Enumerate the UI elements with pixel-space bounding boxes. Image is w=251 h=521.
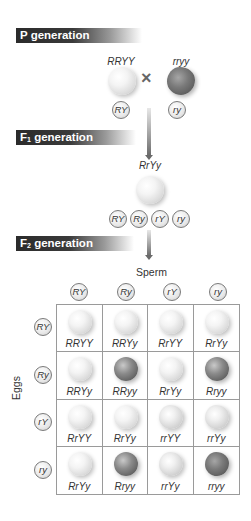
cell-genotype: Rryy xyxy=(194,386,240,397)
cell-genotype: rrYy xyxy=(148,481,193,492)
f1-label-main: F xyxy=(20,131,27,143)
f2-generation-header: F2 generation xyxy=(16,236,134,251)
pea-yellow-wrinkled xyxy=(159,405,183,429)
punnett-cell: rryy xyxy=(194,447,240,494)
pea-yellow-wrinkled xyxy=(205,405,229,429)
pea-yellow-round xyxy=(205,310,229,334)
cell-genotype: RrYy xyxy=(103,433,148,444)
punnett-cell: RrYY xyxy=(148,305,194,352)
f1-generation-header: F1 generation xyxy=(16,130,136,145)
f1-label-rest: generation xyxy=(31,131,93,143)
cell-genotype: RRYy xyxy=(57,386,102,397)
pea-green-wrinkled xyxy=(205,452,229,476)
f2-label-rest: generation xyxy=(31,237,93,249)
punnett-cell: rrYy xyxy=(194,400,240,447)
cell-genotype: RrYY xyxy=(57,433,102,444)
arrow-down-icon xyxy=(147,230,151,256)
f2-label-main: F xyxy=(20,237,27,249)
punnett-cell: RRYy xyxy=(103,305,149,352)
cell-genotype: RRYY xyxy=(57,338,102,349)
cell-genotype: RrYy xyxy=(148,386,193,397)
punnett-square: RRYY RRYy RrYY RrYy RRYy RRyy RrYy Rryy … xyxy=(56,304,240,495)
f1-gamete: rY xyxy=(151,210,169,228)
punnett-cell: RrYy xyxy=(194,305,240,352)
sperm-gamete: rY xyxy=(163,283,181,301)
pea-yellow-wrinkled xyxy=(159,452,183,476)
punnett-cell: RRYy xyxy=(57,352,103,399)
punnett-cell: RrYy xyxy=(103,400,149,447)
punnett-cell: RrYy xyxy=(148,352,194,399)
cell-genotype: rryy xyxy=(194,481,240,492)
sperm-label: Sperm xyxy=(136,266,167,278)
f1-gamete: Ry xyxy=(130,210,148,228)
pea-yellow-round xyxy=(114,405,138,429)
cell-genotype: RrYY xyxy=(148,338,193,349)
punnett-cell: rrYY xyxy=(148,400,194,447)
f1-gamete: ry xyxy=(172,210,190,228)
cell-genotype: RRYy xyxy=(103,338,148,349)
punnett-cell: RRyy xyxy=(103,352,149,399)
egg-gamete: RY xyxy=(34,318,52,336)
punnett-cell: RrYy xyxy=(57,447,103,494)
egg-gamete: Ry xyxy=(34,366,52,384)
parent2-genotype: rryy xyxy=(166,56,196,67)
egg-gamete: rY xyxy=(34,413,52,431)
p-gamete: ry xyxy=(168,101,186,119)
pea-green-round xyxy=(114,452,138,476)
p-gamete: RY xyxy=(112,101,130,119)
parent2-pea-green-wrinkled xyxy=(167,67,195,95)
cell-genotype: rrYy xyxy=(194,433,240,444)
parent1-genotype: RRYY xyxy=(104,56,138,67)
f1-gamete: RY xyxy=(109,210,127,228)
cell-genotype: Rryy xyxy=(103,481,148,492)
sperm-gamete: Ry xyxy=(117,283,135,301)
eggs-label: Eggs xyxy=(10,376,22,400)
f1-genotype: RrYy xyxy=(133,160,167,171)
sperm-gamete: ry xyxy=(209,283,227,301)
pea-yellow-round xyxy=(159,310,183,334)
punnett-cell: Rryy xyxy=(103,447,149,494)
parent1-pea-yellow-round xyxy=(108,67,136,95)
pea-yellow-round xyxy=(68,310,92,334)
cell-genotype: RrYy xyxy=(57,481,102,492)
punnett-cell: rrYy xyxy=(148,447,194,494)
f1-pea-yellow-round xyxy=(136,176,164,204)
punnett-cell: Rryy xyxy=(194,352,240,399)
arrow-down-icon xyxy=(147,108,151,156)
cell-genotype: RrYy xyxy=(194,338,240,349)
p-generation-header: P generation xyxy=(16,28,142,43)
pea-green-round xyxy=(205,357,229,381)
p-generation-label: P generation xyxy=(20,29,89,41)
pea-yellow-round xyxy=(68,405,92,429)
punnett-cell: RrYY xyxy=(57,400,103,447)
egg-gamete: ry xyxy=(34,461,52,479)
cell-genotype: RRyy xyxy=(103,386,148,397)
pea-yellow-round xyxy=(159,357,183,381)
pea-yellow-round xyxy=(68,357,92,381)
pea-yellow-round xyxy=(68,452,92,476)
sperm-gamete: RY xyxy=(70,283,88,301)
pea-green-round xyxy=(114,357,138,381)
punnett-cell: RRYY xyxy=(57,305,103,352)
pea-yellow-round xyxy=(114,310,138,334)
cell-genotype: rrYY xyxy=(148,433,193,444)
cross-symbol: × xyxy=(141,68,152,89)
